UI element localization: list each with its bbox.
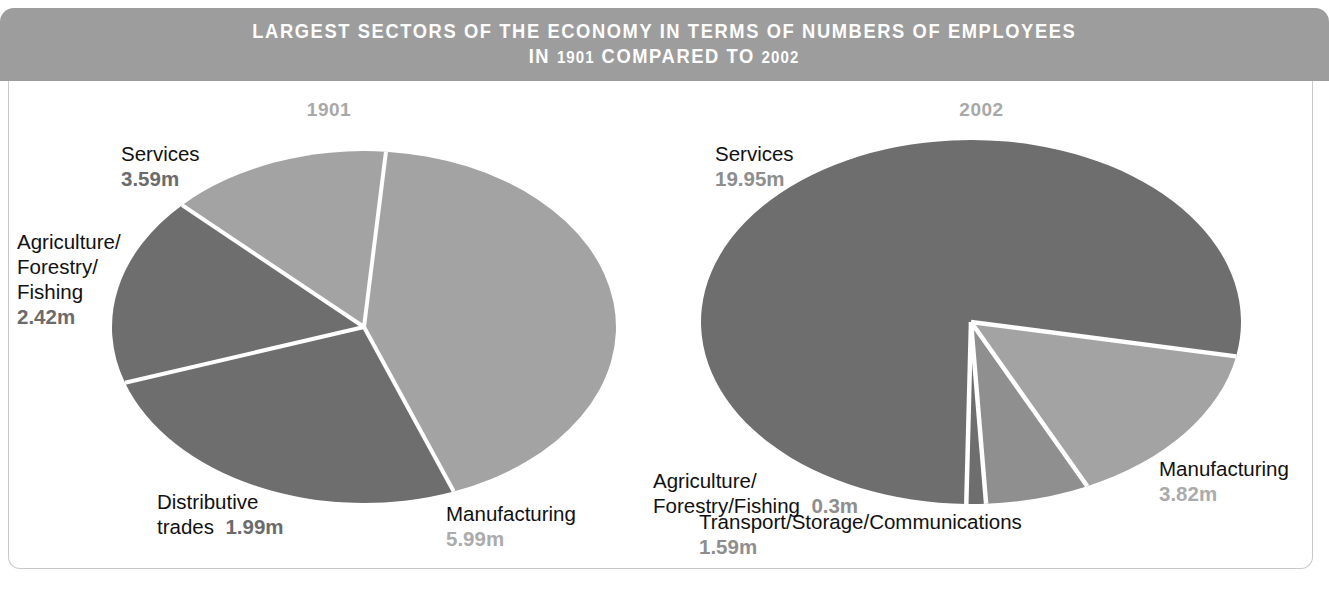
label-services-2002: Services 19.95m — [715, 141, 794, 191]
economy-sectors-pie-figure: LARGEST SECTORS OF THE ECONOMY IN TERMS … — [0, 0, 1329, 593]
title-year-2002: 2002 — [762, 49, 800, 66]
chart-title-line-2: IN 1901 COMPARED TO 2002 — [529, 44, 800, 70]
label-agriculture-1901-text-2: Forestry/ — [17, 254, 121, 279]
label-services-2002-text: Services — [715, 141, 794, 166]
chart-title-line-1: LARGEST SECTORS OF THE ECONOMY IN TERMS … — [252, 19, 1076, 44]
label-transport-2002-text: Transport/Storage/Communications — [699, 509, 1022, 534]
label-transport-2002: Transport/Storage/Communications 1.59m — [699, 509, 1022, 559]
title-compared-to: COMPARED TO — [595, 45, 762, 67]
label-services-1901-text: Services — [121, 141, 200, 166]
label-manufacturing-1901-text: Manufacturing — [446, 501, 576, 526]
title-year-1901: 1901 — [557, 49, 595, 66]
label-manufacturing-1901: Manufacturing 5.99m — [446, 501, 576, 551]
label-agriculture-2002-text-1: Agriculture/ — [653, 468, 858, 493]
label-distributive-1901-text-2: trades — [157, 515, 214, 538]
label-distributive-1901-text-1: Distributive — [157, 489, 284, 514]
label-agriculture-1901-text-3: Fishing — [17, 279, 121, 304]
label-manufacturing-2002-value: 3.82m — [1159, 481, 1289, 506]
label-distributive-1901-line-2: trades 1.99m — [157, 514, 284, 539]
chart-title-band: LARGEST SECTORS OF THE ECONOMY IN TERMS … — [0, 8, 1329, 81]
label-agriculture-1901-text-1: Agriculture/ — [17, 229, 121, 254]
pie-panel-1901: 1901 Services 3.59m Agriculture/ Forestr… — [9, 81, 649, 569]
label-services-2002-value: 19.95m — [715, 166, 794, 191]
label-services-1901-value: 3.59m — [121, 166, 200, 191]
label-agriculture-1901-value: 2.42m — [17, 304, 121, 329]
label-agriculture-1901: Agriculture/ Forestry/ Fishing 2.42m — [17, 229, 121, 329]
label-manufacturing-2002: Manufacturing 3.82m — [1159, 456, 1289, 506]
label-distributive-1901: Distributive trades 1.99m — [157, 489, 284, 539]
label-manufacturing-2002-text: Manufacturing — [1159, 456, 1289, 481]
title-prefix: IN — [529, 45, 557, 67]
pie-panel-2002: 2002 Services 19.95m Agriculture/ Forest… — [649, 81, 1314, 569]
label-transport-2002-value: 1.59m — [699, 534, 1022, 559]
label-manufacturing-1901-value: 5.99m — [446, 526, 576, 551]
chart-body-frame: 1901 Services 3.59m Agriculture/ Forestr… — [8, 81, 1313, 569]
label-distributive-1901-value: 1.99m — [225, 515, 283, 538]
label-services-1901: Services 3.59m — [121, 141, 200, 191]
